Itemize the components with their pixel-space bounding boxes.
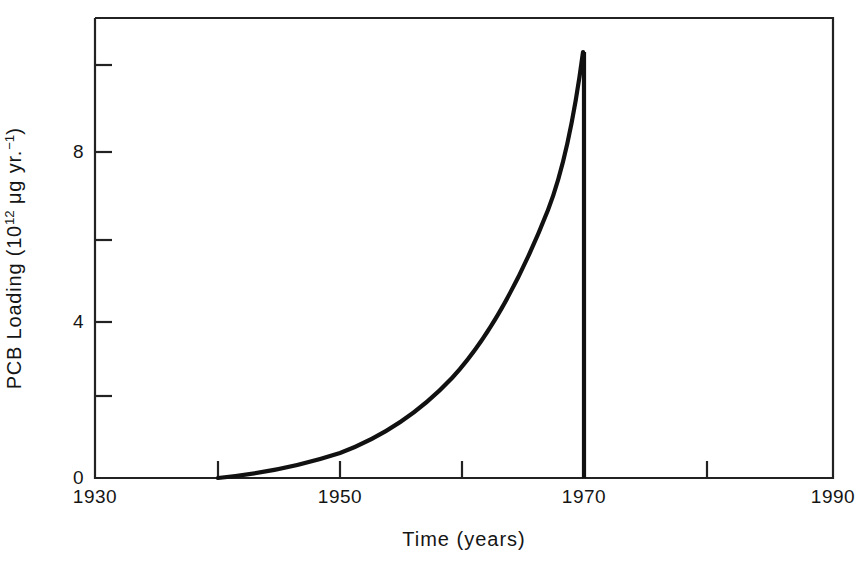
curve-rise [218,52,583,478]
y-axis-title-prefix: PCB Loading (10 [3,225,25,389]
x-axis-title: Time (years) [402,528,525,551]
plot-frame [95,18,833,478]
y-axis-title: PCB Loading (1012 μg yr.−1) [2,127,27,389]
x-tick-label-1950: 1950 [318,486,362,508]
y-axis-title-exponent-minus1: −1 [2,135,17,150]
y-tick-label-0: 0 [62,467,84,489]
x-tick-label-1930: 1930 [73,486,117,508]
data-series-pcb-loading [218,52,584,478]
y-axis-title-suffix: ) [3,127,25,134]
x-tick-label-1990: 1990 [811,486,855,508]
chart-page: 1930 1950 1970 1990 0 4 8 Time (years) P… [0,0,866,574]
y-tick-label-8: 8 [62,141,84,163]
y-tick-label-4: 4 [62,311,84,333]
frame-border [95,18,833,478]
y-axis-title-exponent-12: 12 [2,210,17,225]
x-axis-ticks [218,461,707,478]
y-axis-title-middle: μg yr. [3,150,25,210]
y-axis-ticks [95,65,112,396]
x-tick-label-1970: 1970 [562,486,606,508]
pcb-loading-chart [0,0,866,574]
